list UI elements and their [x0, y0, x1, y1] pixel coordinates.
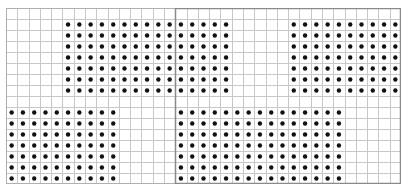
- bottom-right-block-dot: [201, 121, 205, 125]
- bottom-right-block-dot: [325, 143, 329, 147]
- top-left-block-dot: [145, 33, 149, 37]
- top-right-block-dot: [292, 66, 296, 70]
- top-right-block-dot: [348, 33, 352, 37]
- top-left-block-dot: [100, 33, 104, 37]
- bottom-right-block-dot: [235, 121, 239, 125]
- top-right-block-dot: [303, 77, 307, 81]
- bottom-left-block-dot: [100, 132, 104, 136]
- bottom-right-block-dot: [314, 176, 318, 180]
- top-left-block-dot: [201, 33, 205, 37]
- bottom-right-block-dot: [190, 143, 194, 147]
- top-right-block-dot: [371, 77, 375, 81]
- top-left-block-dot: [88, 77, 92, 81]
- top-right-block-dot: [359, 88, 363, 92]
- top-left-block-dot: [179, 22, 183, 26]
- bottom-left-block-dot: [77, 132, 81, 136]
- bottom-left-block-dot: [55, 110, 59, 114]
- top-left-block-dot: [167, 88, 171, 92]
- top-right-block-dot: [359, 44, 363, 48]
- bottom-left-block-dot: [88, 143, 92, 147]
- top-left-block-dot: [179, 44, 183, 48]
- bottom-right-block-dot: [235, 132, 239, 136]
- bottom-left-block-dot: [43, 176, 47, 180]
- top-left-block-dot: [145, 88, 149, 92]
- bottom-right-block-dot: [235, 110, 239, 114]
- top-left-block-dot: [224, 55, 228, 59]
- top-right-block-dot: [359, 22, 363, 26]
- bottom-left-block-dot: [55, 132, 59, 136]
- top-left-block-dot: [88, 88, 92, 92]
- bottom-right-block-dot: [258, 165, 262, 169]
- bottom-left-block-dot: [55, 165, 59, 169]
- top-left-block-dot: [156, 44, 160, 48]
- bottom-left-block-dot: [55, 176, 59, 180]
- top-left-block-dot: [111, 66, 115, 70]
- bottom-left-block-dot: [88, 165, 92, 169]
- top-right-block-dot: [314, 77, 318, 81]
- bottom-right-block-dot: [325, 110, 329, 114]
- bottom-right-block-dot: [201, 165, 205, 169]
- bottom-right-block-dot: [246, 132, 250, 136]
- top-right-block-dot: [348, 44, 352, 48]
- bottom-right-block-dot: [179, 154, 183, 158]
- bottom-left-block-dot: [32, 165, 36, 169]
- bottom-right-block-dot: [280, 143, 284, 147]
- top-right-block-dot: [314, 22, 318, 26]
- top-left-block-dot: [224, 66, 228, 70]
- bottom-right-block-dot: [292, 132, 296, 136]
- top-left-block-dot: [190, 77, 194, 81]
- top-left-block-dot: [190, 55, 194, 59]
- bottom-right-block-dot: [280, 176, 284, 180]
- top-left-block-dot: [213, 88, 217, 92]
- bottom-right-block-dot: [337, 121, 341, 125]
- bottom-right-block-dot: [325, 121, 329, 125]
- top-left-block-dot: [77, 77, 81, 81]
- top-left-block-dot: [213, 77, 217, 81]
- top-left-block-dot: [111, 33, 115, 37]
- bottom-right-block-dot: [292, 176, 296, 180]
- top-left-block-dot: [179, 77, 183, 81]
- bottom-left-block-dot: [100, 110, 104, 114]
- top-left-block-dot: [167, 44, 171, 48]
- bottom-left-block-dot: [111, 121, 115, 125]
- bottom-right-block-dot: [213, 121, 217, 125]
- top-right-block-dot: [303, 33, 307, 37]
- top-left-block-dot: [88, 44, 92, 48]
- bottom-right-block-dot: [337, 143, 341, 147]
- top-left-block-dot: [190, 66, 194, 70]
- bottom-left-block-dot: [9, 110, 13, 114]
- bottom-right-block-dot: [280, 110, 284, 114]
- bottom-left-block-dot: [32, 132, 36, 136]
- bottom-left-block-dot: [66, 143, 70, 147]
- top-left-block-dot: [156, 22, 160, 26]
- top-left-block-dot: [213, 66, 217, 70]
- bottom-right-block-dot: [269, 132, 273, 136]
- bottom-right-block-dot: [246, 154, 250, 158]
- bottom-left-block-dot: [88, 132, 92, 136]
- bottom-left-block-dot: [32, 110, 36, 114]
- bottom-right-block-dot: [269, 165, 273, 169]
- top-left-block-dot: [201, 88, 205, 92]
- bottom-left-block-dot: [77, 121, 81, 125]
- top-left-block-dot: [100, 88, 104, 92]
- top-left-block-dot: [201, 77, 205, 81]
- top-left-block-dot: [66, 44, 70, 48]
- bottom-right-block-dot: [325, 132, 329, 136]
- top-left-block-dot: [190, 44, 194, 48]
- bottom-right-block-dot: [292, 110, 296, 114]
- top-left-block-dot: [100, 22, 104, 26]
- bottom-left-block-dot: [43, 121, 47, 125]
- top-right-block-dot: [314, 33, 318, 37]
- bottom-left-block-dot: [21, 165, 25, 169]
- top-right-block-dot: [337, 55, 341, 59]
- top-left-block-dot: [66, 33, 70, 37]
- bottom-left-block-dot: [21, 110, 25, 114]
- top-left-block-dot: [77, 88, 81, 92]
- top-left-block-dot: [213, 55, 217, 59]
- bottom-left-block-dot: [100, 154, 104, 158]
- bottom-right-block-dot: [246, 143, 250, 147]
- bottom-right-block-dot: [190, 176, 194, 180]
- top-left-block-dot: [156, 33, 160, 37]
- bottom-left-block-dot: [21, 176, 25, 180]
- bottom-right-block-dot: [235, 154, 239, 158]
